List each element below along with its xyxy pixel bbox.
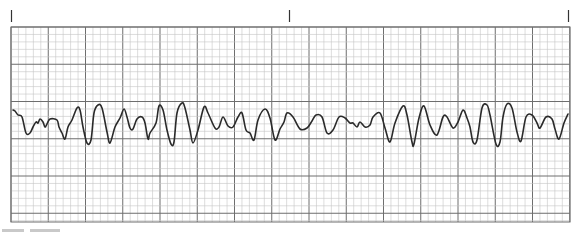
time-tick-marks <box>12 10 569 22</box>
figure-caption-clipped <box>2 229 66 236</box>
grid-border <box>11 27 570 222</box>
ecg-grid <box>11 27 570 222</box>
ecg-trace <box>13 103 568 147</box>
caption-fragment <box>30 229 60 232</box>
ecg-strip <box>0 0 584 236</box>
caption-fragment <box>2 229 24 232</box>
